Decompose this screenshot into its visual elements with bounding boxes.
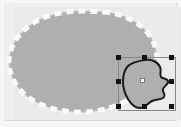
drawing-canvas-root <box>0 0 181 127</box>
handle-bottom-right[interactable] <box>169 104 174 109</box>
handle-bottom-center[interactable] <box>142 104 147 109</box>
handle-top-right[interactable] <box>169 55 174 60</box>
handle-top-left[interactable] <box>116 55 121 60</box>
handle-top-center[interactable] <box>142 55 147 60</box>
center-anchor-point[interactable] <box>140 78 145 83</box>
handle-middle-left[interactable] <box>116 79 121 84</box>
handle-bottom-left[interactable] <box>116 104 121 109</box>
handle-middle-right[interactable] <box>169 79 174 84</box>
selection-bounding-box <box>118 57 176 111</box>
